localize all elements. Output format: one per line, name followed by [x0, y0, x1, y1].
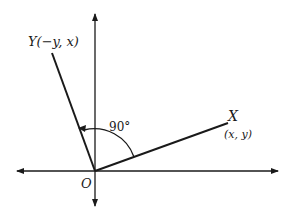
- label-x-point: X: [227, 108, 239, 124]
- label-y-point: Y(−y, x): [28, 34, 79, 49]
- label-angle: 90°: [109, 120, 130, 134]
- label-x-coords: (x, y): [224, 128, 252, 141]
- rotation-diagram: Y(−y, x) 90° X (x, y) O: [0, 0, 293, 215]
- label-origin: O: [81, 176, 92, 191]
- segment-oy: [52, 53, 95, 171]
